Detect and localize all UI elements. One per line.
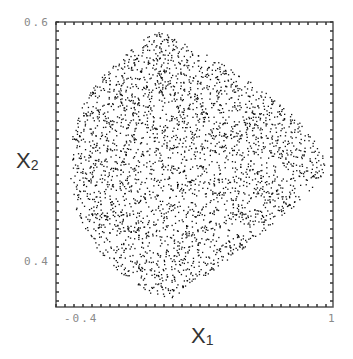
point-cloud <box>70 32 325 298</box>
y-tick-label-bottom: 0.4 <box>24 255 50 268</box>
x-axis-label: X1 <box>191 323 213 349</box>
y-tick-label-top: 0.6 <box>24 16 50 29</box>
y-axis-label: X2 <box>16 148 38 174</box>
x-tick-label-right: 1 <box>328 312 337 325</box>
x-tick-label-left: -0.4 <box>64 312 99 325</box>
scatter-plot <box>0 0 353 359</box>
